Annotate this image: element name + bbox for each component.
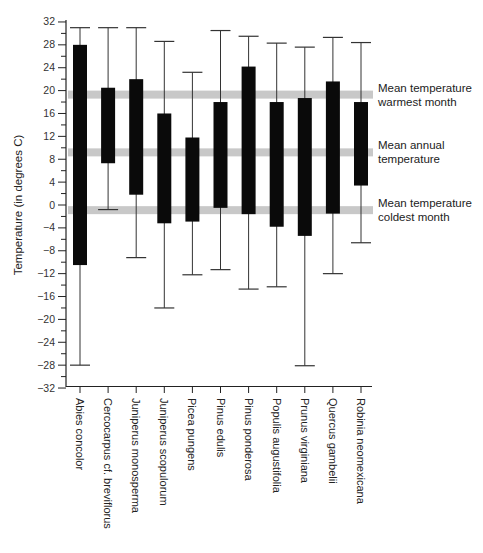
y-axis-label: Temperature (in degrees C): [12, 135, 24, 276]
category-label: Juniperus scopulorum: [158, 398, 170, 506]
range-bar: [101, 88, 115, 164]
category-label: Quercus gambelii: [327, 398, 339, 484]
y-tick-label: −28: [37, 359, 55, 371]
y-tick-label: 16: [43, 107, 55, 119]
band-label: Mean temperaturewarmest month: [377, 82, 472, 108]
band-label-line2: warmest month: [377, 96, 457, 108]
category-label: Abies concolor: [74, 398, 86, 470]
category-label: Prunus virginiana: [299, 398, 311, 484]
y-tick-label: 0: [49, 199, 55, 211]
category-label: Pinus edulis: [215, 398, 227, 458]
y-tick-label: −32: [37, 382, 55, 394]
range-bar: [354, 102, 368, 186]
y-tick-label: 24: [43, 61, 55, 73]
y-tick-label: 20: [43, 84, 55, 96]
category-label: Cercocarpus cf. breviflorus: [102, 398, 114, 529]
species-ranges: [70, 28, 371, 366]
y-tick-label: −16: [37, 290, 55, 302]
y-tick-label: 8: [49, 153, 55, 165]
range-bar: [185, 138, 199, 222]
y-tick-label: −24: [37, 336, 55, 348]
y-tick-label: −12: [37, 267, 55, 279]
range-bar: [73, 45, 87, 265]
band-label-line1: Mean annual: [378, 139, 445, 151]
y-tick-label: 12: [43, 130, 55, 142]
y-tick-label: −4: [43, 221, 55, 233]
category-label: Robinia neomexicana: [355, 398, 367, 505]
y-tick-label: −20: [37, 313, 55, 325]
range-bar: [326, 81, 340, 213]
band-label-line1: Mean temperature: [378, 82, 472, 94]
band-label: Mean annualtemperature: [378, 139, 445, 165]
band-label-line2: coldest month: [378, 211, 450, 223]
range-bar: [129, 79, 143, 195]
y-tick-label: 32: [43, 15, 55, 27]
range-bar: [157, 113, 171, 223]
band-label-line2: temperature: [378, 153, 440, 165]
range-bar: [298, 98, 312, 236]
y-tick-label: 4: [49, 176, 55, 188]
category-label: Juniperus monosperma: [130, 398, 142, 514]
range-bar: [214, 102, 228, 208]
y-tick-label: −8: [43, 244, 55, 256]
band-label: Mean temperaturecoldest month: [378, 197, 472, 223]
band-label-line1: Mean temperature: [378, 197, 472, 209]
category-label: Picea pungens: [186, 398, 198, 471]
range-bar: [242, 67, 256, 215]
y-tick-label: 28: [43, 38, 55, 50]
category-label: Pinus ponderosa: [243, 398, 255, 481]
range-bar: [270, 102, 284, 227]
range-chart: Abies concolorCercocarpus cf. brevifloru…: [0, 0, 483, 553]
category-label: Populis augustifolia: [271, 398, 283, 494]
band-labels: Mean temperaturewarmest monthMean annual…: [377, 82, 472, 224]
